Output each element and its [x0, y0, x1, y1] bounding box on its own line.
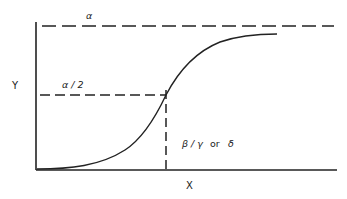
x-axis-label: X: [186, 180, 193, 191]
y-axis-label: Y: [11, 80, 19, 91]
asymptote-label: α: [86, 10, 93, 21]
sigmoid-diagram: α α / 2 Y X β / γ or δ: [0, 0, 347, 199]
midpoint-label-or: or: [210, 138, 220, 149]
half-max-label: α / 2: [62, 79, 84, 90]
midpoint-label-ratio: β / γ: [181, 138, 204, 149]
sigmoid-curve: [37, 34, 277, 169]
midpoint-label-delta: δ: [228, 138, 234, 149]
